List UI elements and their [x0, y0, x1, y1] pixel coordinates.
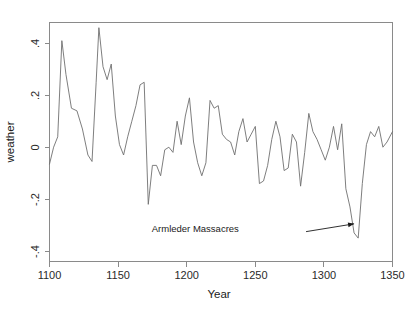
y-tick-labels: .4 .2 0 -.2 -.4	[29, 39, 41, 258]
y-tick-label-0: .4	[29, 39, 41, 48]
weather-series-line	[50, 28, 393, 238]
x-tick-label-4: 1300	[312, 269, 336, 281]
x-axis-ticks	[50, 262, 393, 267]
y-tick-label-4: -.4	[29, 245, 41, 258]
annotation-armleder-massacres: Armleder Massacres	[152, 222, 354, 233]
chart-figure: .4 .2 0 -.2 -.4 1100 1150 1200 1250 1300…	[0, 0, 415, 311]
x-tick-labels: 1100 1150 1200 1250 1300 1350	[38, 269, 405, 281]
y-tick-label-2: 0	[29, 144, 41, 150]
x-axis-title: Year	[207, 288, 230, 300]
y-axis-ticks	[45, 44, 50, 252]
x-tick-label-2: 1200	[174, 269, 198, 281]
annotation-label: Armleder Massacres	[152, 223, 239, 234]
y-tick-label-3: -.2	[29, 193, 41, 206]
x-tick-label-3: 1250	[243, 269, 267, 281]
x-tick-label-5: 1350	[380, 269, 404, 281]
weather-year-line-chart: .4 .2 0 -.2 -.4 1100 1150 1200 1250 1300…	[0, 0, 415, 311]
x-tick-label-0: 1100	[38, 269, 62, 281]
y-axis-title: weather	[4, 121, 16, 163]
x-tick-label-1: 1150	[106, 269, 130, 281]
y-tick-label-1: .2	[29, 91, 41, 100]
annotation-arrow-line	[306, 224, 354, 232]
